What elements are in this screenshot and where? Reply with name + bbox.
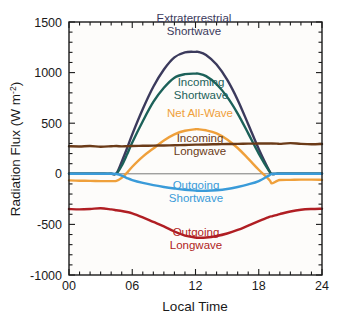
radiation-flux-line-chart: 0006121824-1000-500050010001500 Extrater… xyxy=(0,0,338,322)
x-tick-label: 24 xyxy=(315,279,329,293)
ann-net-allwave-line1: Net All-Wave xyxy=(167,107,233,119)
ann-extraterrestrial-line2: Shortwave xyxy=(167,25,221,37)
y-axis-title-main: Radiation Flux (W m xyxy=(8,94,23,216)
ann-incoming-lw-line1: Incoming xyxy=(177,132,224,144)
x-tick-label: 00 xyxy=(62,279,76,293)
y-tick-label: -500 xyxy=(37,218,62,232)
ann-incoming-sw: IncomingShortwave xyxy=(174,76,228,101)
x-tick-label: 06 xyxy=(125,279,139,293)
ann-incoming-lw: IncomingLongwave xyxy=(174,132,226,157)
ann-outgoing-sw-line1: Outgoing xyxy=(173,179,220,191)
x-tick-label: 12 xyxy=(189,279,203,293)
y-tick-label: -1000 xyxy=(30,269,62,283)
ann-incoming-sw-line1: Incoming xyxy=(178,76,225,88)
ann-extraterrestrial: ExtraterrestrialShortwave xyxy=(157,12,232,37)
ann-extraterrestrial-line1: Extraterrestrial xyxy=(157,12,232,24)
ann-outgoing-sw-line2: Shortwave xyxy=(169,192,223,204)
y-tick-label: 0 xyxy=(55,167,62,181)
y-tick-label: 500 xyxy=(41,117,62,131)
ann-outgoing-sw: OutgoingShortwave xyxy=(169,179,223,204)
ann-outgoing-lw-line1: Outgoing xyxy=(173,226,220,238)
ann-incoming-sw-line2: Shortwave xyxy=(174,89,228,101)
y-tick-label: 1500 xyxy=(34,16,62,30)
x-tick-label: 18 xyxy=(252,279,266,293)
ann-outgoing-lw-line2: Longwave xyxy=(170,239,222,251)
svg-text:Radiation Flux (W m-2): Radiation Flux (W m-2) xyxy=(8,82,23,216)
y-axis-title-close-paren: ) xyxy=(8,82,23,87)
ann-incoming-lw-line2: Longwave xyxy=(174,145,226,157)
ann-outgoing-lw: OutgoingLongwave xyxy=(170,226,222,251)
y-tick-label: 1000 xyxy=(34,66,62,80)
chart-figure: 0006121824-1000-500050010001500 Extrater… xyxy=(0,0,338,322)
y-axis-title: Radiation Flux (W m-2) xyxy=(8,82,23,216)
ann-net-allwave: Net All-Wave xyxy=(167,107,233,119)
x-axis-title: Local Time xyxy=(162,299,227,314)
